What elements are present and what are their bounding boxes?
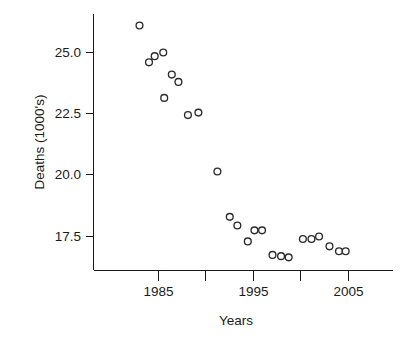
scatter-point	[234, 222, 241, 229]
scatter-point	[316, 233, 323, 240]
scatter-point	[342, 248, 349, 255]
x-axis-tick-labels: 1985 1995 2005	[143, 284, 363, 299]
scatter-point	[326, 243, 333, 250]
y-tick-label-17-5: 17.5	[55, 229, 81, 244]
scatter-point	[308, 236, 315, 243]
scatter-points-group	[136, 22, 349, 261]
scatter-point	[151, 53, 158, 60]
y-tick-label-22-5: 22.5	[55, 106, 81, 121]
scatter-point	[226, 213, 233, 220]
scatter-point	[175, 79, 182, 86]
scatter-point	[244, 238, 251, 245]
scatter-point	[269, 252, 276, 259]
y-axis-ticks	[86, 53, 94, 237]
scatter-point	[300, 236, 307, 243]
x-axis-title: Years	[219, 313, 253, 328]
scatter-chart-figure: 25.0 22.5 20.0 17.5 1985 1995 2005 Years…	[0, 0, 410, 344]
scatter-point	[136, 22, 143, 29]
scatter-point	[160, 49, 167, 56]
scatter-point	[336, 248, 343, 255]
scatter-point	[278, 253, 285, 260]
scatter-point	[251, 227, 258, 234]
scatter-point	[259, 227, 266, 234]
y-tick-label-25: 25.0	[55, 45, 81, 60]
y-axis-tick-labels: 25.0 22.5 20.0 17.5	[55, 45, 81, 244]
scatter-point	[146, 59, 153, 66]
scatter-point	[161, 94, 168, 101]
scatter-point	[195, 109, 202, 116]
x-tick-label-2005: 2005	[333, 284, 363, 299]
scatter-point	[214, 168, 221, 175]
chart-svg: 25.0 22.5 20.0 17.5 1985 1995 2005 Years…	[0, 0, 410, 344]
x-tick-label-1995: 1995	[238, 284, 268, 299]
scatter-point	[185, 112, 192, 119]
y-axis-title: Deaths (1000's)	[32, 95, 47, 190]
scatter-point	[285, 254, 292, 261]
x-axis-ticks	[159, 271, 349, 282]
x-tick-label-1985: 1985	[143, 284, 173, 299]
y-tick-label-20: 20.0	[55, 167, 81, 182]
scatter-point	[168, 71, 175, 78]
